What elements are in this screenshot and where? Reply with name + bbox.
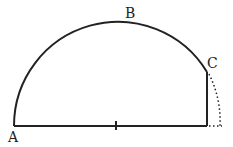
arc-ABC: [14, 22, 207, 126]
label-a: A: [8, 130, 18, 144]
label-b: B: [125, 6, 135, 20]
dotted-arc-extension: [209, 74, 220, 126]
label-c: C: [207, 56, 218, 70]
diagram-canvas: [0, 0, 233, 147]
